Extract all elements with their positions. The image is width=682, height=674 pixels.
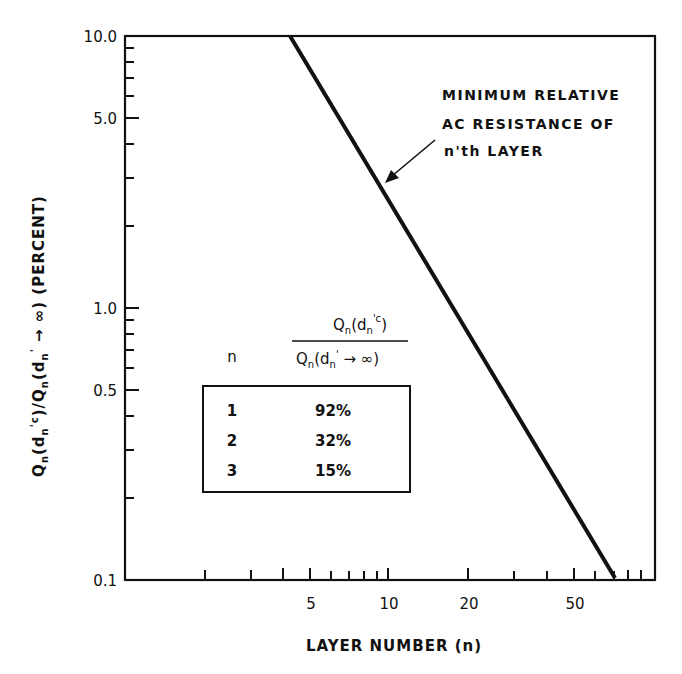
y-tick-label-1: 1.0 [93, 300, 117, 318]
table-row-n: 1 [227, 402, 237, 420]
y-tick-label-10: 10.0 [84, 28, 117, 46]
annotation-arrow-icon [385, 140, 435, 183]
svg-text:Qn(dn'c)/Qn(dn' → ∞) (PERCENT): Qn(dn'c)/Qn(dn' → ∞) (PERCENT) [29, 195, 50, 477]
y-axis-ticks [125, 36, 139, 498]
svg-text:Qn(dn' → ∞): Qn(dn' → ∞) [296, 349, 379, 370]
svg-text:n'th LAYER: n'th LAYER [444, 143, 544, 159]
table-header-n: n [227, 348, 237, 366]
table-row-n: 2 [227, 432, 237, 450]
x-tick-label-10: 10 [379, 595, 398, 613]
x-tick-label-5: 5 [306, 595, 316, 613]
y-tick-label-0-1: 0.1 [93, 572, 117, 590]
y-axis-title: Qn(dn'c)/Qn(dn' → ∞) (PERCENT) [29, 195, 50, 477]
svg-text:MINIMUM RELATIVE: MINIMUM RELATIVE [442, 87, 620, 103]
annotation-label: MINIMUM RELATIVE AC RESISTANCE OF n'th L… [442, 87, 620, 159]
svg-text:AC RESISTANCE OF: AC RESISTANCE OF [442, 116, 615, 132]
x-tick-label-20: 20 [459, 595, 478, 613]
svg-text:Qn(dn'c): Qn(dn'c) [333, 313, 387, 336]
y-tick-label-0-5: 0.5 [93, 382, 117, 400]
x-axis-title: LAYER NUMBER (n) [306, 637, 482, 655]
inset-table-header: n Qn(dn'c) Qn(dn' → ∞) [227, 313, 408, 370]
inset-table-rows: 1 92% 2 32% 3 15% [227, 402, 351, 480]
y-tick-label-5: 5.0 [93, 110, 117, 128]
table-row-value: 92% [315, 402, 351, 420]
table-row-value: 32% [315, 432, 351, 450]
table-row-value: 15% [315, 462, 351, 480]
table-row-n: 3 [227, 462, 237, 480]
chart-canvas: 10.0 5.0 1.0 0.5 0.1 5 10 20 50 LAYER NU… [0, 0, 682, 674]
x-tick-label-50: 50 [565, 595, 584, 613]
x-axis-ticks [205, 568, 641, 580]
